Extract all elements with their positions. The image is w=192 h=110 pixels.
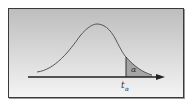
t-distribution-diagram: α t α — [0, 0, 192, 110]
alpha-label: α — [131, 65, 137, 74]
axis-arrow-icon — [156, 74, 165, 80]
critical-value-subscript: α — [125, 85, 129, 92]
